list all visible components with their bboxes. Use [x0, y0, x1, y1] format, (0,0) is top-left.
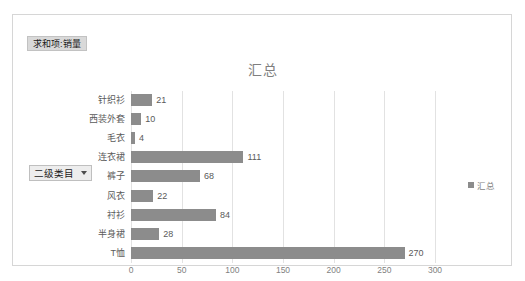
- bar-row: 10: [131, 110, 435, 129]
- bar-value-label: 68: [204, 168, 214, 184]
- pivot-value-field-button[interactable]: 求和项:销量: [27, 36, 87, 51]
- value-axis-tick-label: 100: [225, 265, 239, 275]
- bar-row: 270: [131, 244, 435, 263]
- value-axis-tick-label: 300: [428, 265, 442, 275]
- value-axis-tick-label: 250: [377, 265, 391, 275]
- bar-value-label: 111: [247, 149, 261, 165]
- category-axis-label: T恤: [19, 245, 131, 261]
- bar[interactable]: [131, 151, 243, 163]
- category-axis-label: 毛衣: [19, 130, 131, 146]
- bar-value-label: 28: [163, 226, 173, 242]
- value-axis-tick-label: 50: [177, 265, 186, 275]
- bar-value-label: 10: [145, 111, 155, 127]
- value-axis-tick-label: 200: [327, 265, 341, 275]
- bar[interactable]: [131, 132, 135, 144]
- bar[interactable]: [131, 113, 141, 125]
- value-axis-tick-label: 0: [129, 265, 134, 275]
- bar-value-label: 22: [157, 188, 167, 204]
- category-axis: 针织衫西装外套毛衣连衣裙裤子风衣衬衫半身裙T恤: [13, 91, 131, 263]
- bar-row: 4: [131, 129, 435, 148]
- value-axis-tick-labels: 050100150200250300: [131, 265, 435, 279]
- bar[interactable]: [131, 170, 200, 182]
- bar-row: 22: [131, 187, 435, 206]
- bar-row: 84: [131, 206, 435, 225]
- category-axis-label: 连衣裙: [19, 149, 131, 165]
- gridline: [435, 91, 436, 263]
- category-axis-label: 衬衫: [19, 207, 131, 223]
- bar[interactable]: [131, 247, 405, 259]
- value-axis-tick-label: 150: [276, 265, 290, 275]
- category-axis-label: 西装外套: [19, 111, 131, 127]
- bar[interactable]: [131, 228, 159, 240]
- bar-value-label: 4: [139, 130, 144, 146]
- bar-value-label: 21: [156, 92, 166, 108]
- bar-row: 111: [131, 148, 435, 167]
- bar[interactable]: [131, 190, 153, 202]
- chart-title: 汇总: [13, 59, 513, 79]
- category-axis-label: 针织衫: [19, 92, 131, 108]
- category-axis-label: 风衣: [19, 188, 131, 204]
- legend-entry-label: 汇总: [477, 179, 495, 191]
- bar[interactable]: [131, 209, 216, 221]
- bar-value-label: 84: [220, 207, 230, 223]
- bar[interactable]: [131, 94, 152, 106]
- pivot-chart-frame: 求和项:销量 二级类目 汇总 针织衫西装外套毛衣连衣裙裤子风衣衬衫半身裙T恤 2…: [12, 14, 512, 266]
- chart-legend[interactable]: 汇总: [468, 179, 495, 191]
- bar-value-label: 270: [409, 245, 424, 261]
- plot-area: 2110411168228428270: [131, 91, 435, 263]
- bar-row: 68: [131, 167, 435, 186]
- bar-row: 21: [131, 91, 435, 110]
- bar-row: 28: [131, 225, 435, 244]
- legend-swatch-icon: [468, 182, 474, 188]
- screenshot-root: 求和项:销量 二级类目 汇总 针织衫西装外套毛衣连衣裙裤子风衣衬衫半身裙T恤 2…: [0, 0, 525, 281]
- category-axis-label: 半身裙: [19, 226, 131, 242]
- category-axis-label: 裤子: [19, 168, 131, 184]
